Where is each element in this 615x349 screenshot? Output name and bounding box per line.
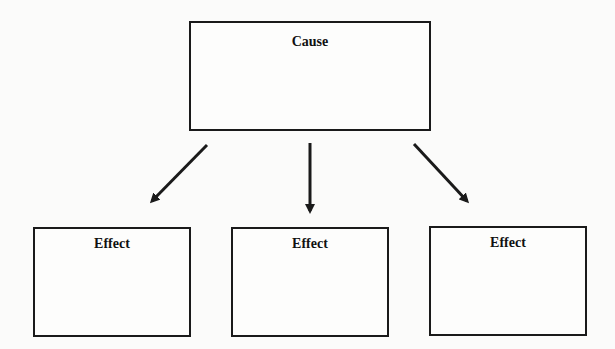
effect-label-2: Effect xyxy=(233,236,387,252)
arrow-right xyxy=(414,144,467,201)
arrow-left xyxy=(152,145,207,201)
effect-label-3: Effect xyxy=(431,235,585,251)
effect-box-3: Effect xyxy=(429,226,587,336)
effect-box-1: Effect xyxy=(33,227,191,337)
effect-label-1: Effect xyxy=(35,236,189,252)
effect-box-2: Effect xyxy=(231,227,389,337)
